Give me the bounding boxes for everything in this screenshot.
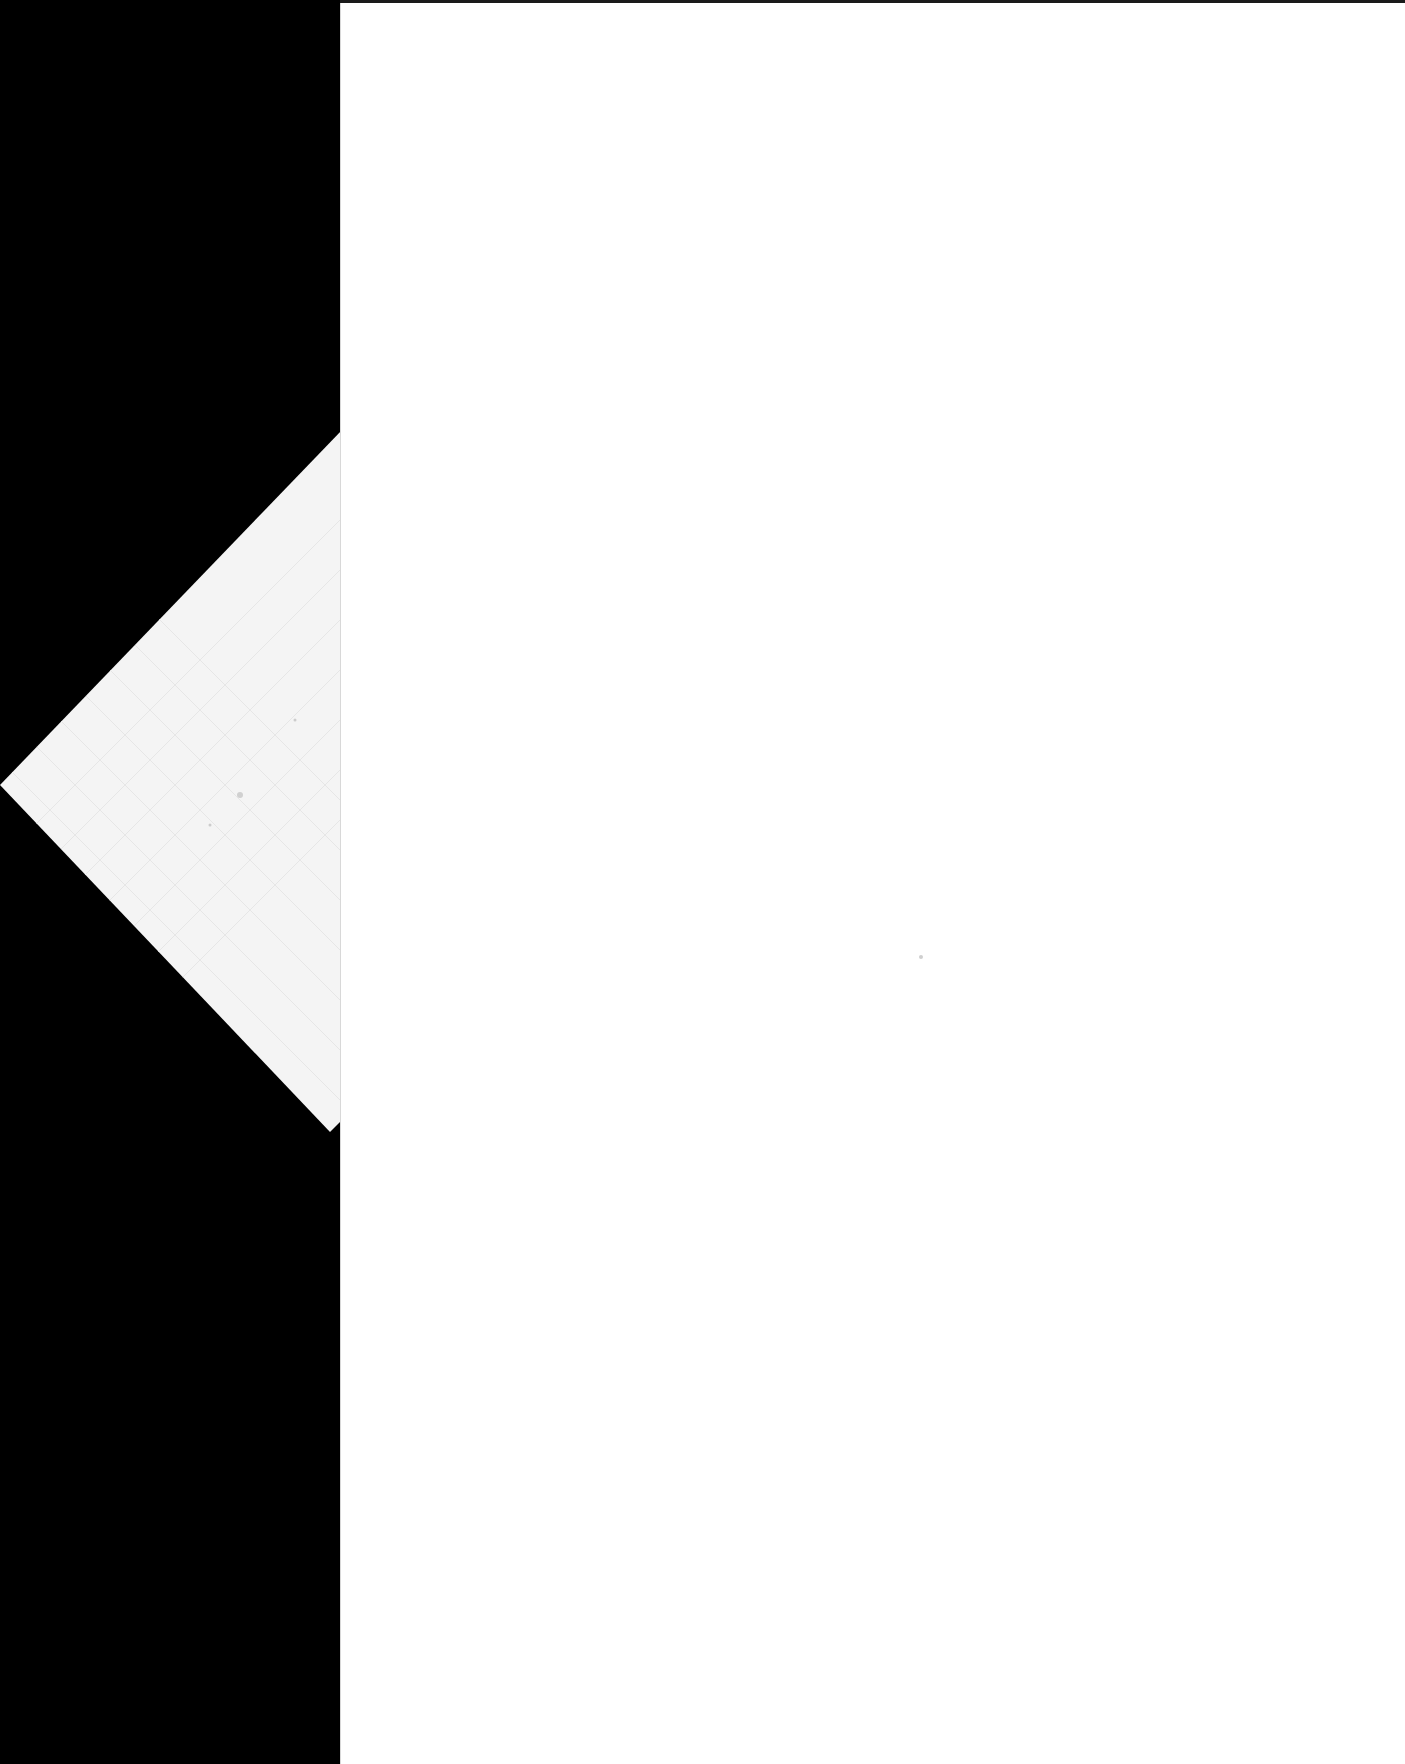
scan-speck xyxy=(919,955,923,959)
blank-page xyxy=(340,3,1405,1764)
